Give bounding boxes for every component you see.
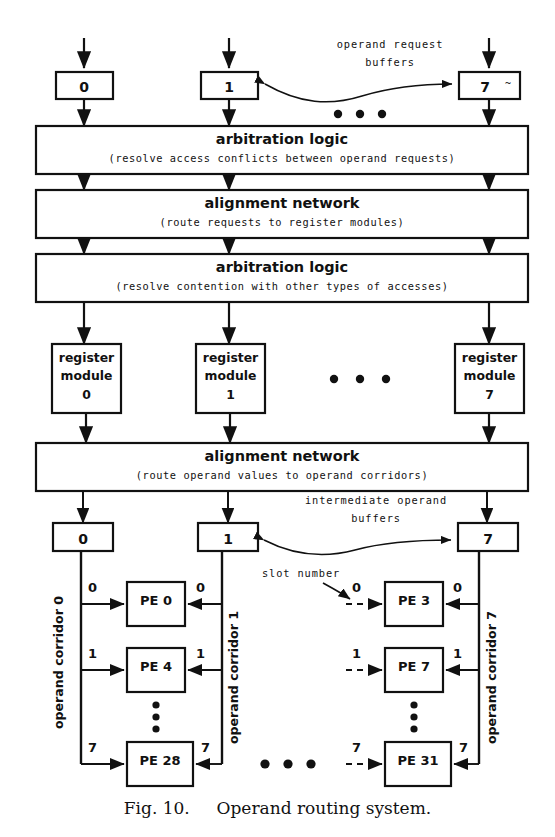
pe-7-slot-left: 1 — [352, 646, 361, 661]
pe-0-label: PE 0 — [127, 593, 185, 608]
register-module-7-line1: register — [455, 350, 524, 366]
register-module-7-index: 7 — [455, 387, 524, 402]
pe-0-slot-right: 0 — [196, 580, 205, 595]
figure-caption: Fig. 10. Operand routing system. — [0, 798, 555, 818]
pe-3-slot-right: 0 — [453, 580, 462, 595]
intermediate-buffer-1-label: 1 — [223, 531, 233, 547]
arrows-stage1-to-stage2 — [84, 174, 489, 190]
stage-2-title: alignment network — [36, 195, 528, 211]
pe-3-label: PE 3 — [385, 593, 443, 608]
request-buffer-0-label: 0 — [79, 79, 89, 95]
pe-0-slot-left: 0 — [88, 580, 97, 595]
pe-28-label: PE 28 — [127, 753, 193, 768]
pe-7-label: PE 7 — [385, 659, 443, 674]
operand-request-buffers-annotation-leader — [265, 84, 452, 102]
register-module-7-line2: module — [455, 368, 524, 384]
pe-group-2-vertical-ellipsis — [410, 701, 417, 732]
pe-28-slot-right: 7 — [201, 740, 210, 755]
pe-28-slot-left: 7 — [88, 740, 97, 755]
arrows-register-modules-to-stage4 — [86, 413, 489, 443]
arrows-stage3-to-register-modules — [84, 302, 489, 344]
intermediate-buffer-0-label: 0 — [78, 531, 88, 547]
intermediate-operand-buffers-annotation-line2: buffers — [276, 512, 476, 524]
stage-3-title: arbitration logic — [36, 259, 528, 275]
pe-7-slot-right: 1 — [453, 646, 462, 661]
pe-31-slot-left: 7 — [352, 740, 361, 755]
pe-4-slot-right: 1 — [196, 646, 205, 661]
stage-2-subtitle: (route requests to register modules) — [36, 216, 528, 228]
request-buffer-0: 0 — [56, 72, 113, 99]
stage-1-subtitle: (resolve access conflicts between operan… — [36, 152, 528, 164]
register-module-0-line1: register — [52, 350, 121, 366]
request-buffer-1: 1 — [201, 72, 258, 99]
register-module-1-line2: module — [196, 368, 265, 384]
slot-number-leader — [323, 583, 350, 599]
pe-4-slot-left: 1 — [88, 646, 97, 661]
intermediate-buffer-7: 7 — [458, 523, 518, 551]
arrows-stage2-to-stage3 — [84, 238, 489, 254]
request-buffer-7-label: 7 — [480, 79, 490, 95]
pe-31-slot-right: 7 — [459, 740, 468, 755]
request-buffer-7: 7 ~ — [459, 72, 520, 99]
intermediate-buffer-1: 1 — [198, 523, 258, 551]
register-module-0-index: 0 — [52, 387, 121, 402]
request-buffer-1-label: 1 — [224, 79, 234, 95]
request-buffer-7-tick: ~ — [505, 78, 511, 89]
operand-request-buffers-annotation-line2: buffers — [300, 56, 480, 68]
stage-4-subtitle: (route operand values to operand corrido… — [36, 469, 528, 481]
operand-routing-diagram: 0 1 7 ~ — [0, 0, 555, 837]
operand-corridor-7-label: operand corridor 7 — [484, 598, 499, 758]
pe-group-1-vertical-ellipsis — [152, 701, 159, 732]
register-module-1-line1: register — [196, 350, 265, 366]
register-module-0-line2: module — [52, 368, 121, 384]
intermediate-operand-buffers-annotation-leader — [264, 540, 451, 555]
operand-corridor-0-label: operand corridor 0 — [51, 583, 66, 743]
figure-caption-label: Fig. 10. — [124, 798, 190, 818]
pe-groups-ellipsis — [260, 759, 315, 768]
slot-number-annotation: slot number — [262, 567, 340, 579]
register-modules-ellipsis — [330, 375, 390, 383]
intermediate-buffer-0: 0 — [53, 523, 113, 551]
operand-request-buffers-annotation-line1: operand request — [300, 38, 480, 50]
stage-3-subtitle: (resolve contention with other types of … — [36, 280, 528, 292]
intermediate-operand-buffers-annotation-line1: intermediate operand — [276, 494, 476, 506]
pe-3-slot-left: 0 — [352, 580, 361, 595]
register-module-1-index: 1 — [196, 387, 265, 402]
figure-caption-text: Operand routing system. — [217, 798, 432, 818]
stage-1-title: arbitration logic — [36, 131, 528, 147]
operand-corridor-1-label: operand corridor 1 — [226, 598, 241, 758]
stage-4-title: alignment network — [36, 448, 528, 464]
intermediate-buffer-7-label: 7 — [483, 531, 493, 547]
pe-4-label: PE 4 — [127, 659, 185, 674]
arrows-buffers-to-stage1 — [84, 99, 489, 126]
request-buffers-ellipsis — [334, 110, 386, 118]
pe-31-label: PE 31 — [385, 753, 451, 768]
